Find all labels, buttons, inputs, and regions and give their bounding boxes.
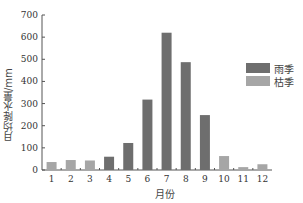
legend-label-dry: 枯季	[274, 74, 294, 89]
bar-month-1	[47, 162, 57, 170]
plot-area: 0100200300400500600700123456789101112	[0, 0, 303, 203]
y-tick-label: 300	[21, 99, 38, 109]
bar-month-6	[142, 100, 152, 170]
x-tick-label: 2	[68, 174, 74, 184]
x-tick-label: 12	[257, 174, 268, 184]
y-axis-label: 月均降水量/mm	[1, 60, 15, 150]
x-tick-label: 8	[183, 174, 189, 184]
legend-item-wet-season: 雨季	[246, 62, 294, 74]
bar-month-8	[181, 62, 191, 170]
y-tick-label: 400	[21, 76, 38, 86]
bar-month-11	[238, 167, 248, 170]
bar-month-9	[200, 115, 210, 170]
x-tick-label: 5	[125, 174, 131, 184]
x-tick-label: 7	[164, 174, 170, 184]
x-tick-label: 6	[145, 174, 151, 184]
bar-month-4	[104, 157, 114, 170]
x-tick-label: 9	[202, 174, 208, 184]
bar-month-5	[123, 143, 133, 170]
legend-swatch-dry	[246, 76, 270, 86]
y-tick-label: 100	[21, 143, 38, 153]
bar-month-2	[66, 160, 76, 170]
bar-month-12	[257, 164, 267, 170]
legend: 雨季 枯季	[246, 62, 294, 88]
x-tick-label: 1	[49, 174, 55, 184]
y-tick-label: 500	[21, 54, 38, 64]
y-tick-label: 200	[21, 121, 38, 131]
x-tick-label: 11	[238, 174, 249, 184]
x-tick-label: 3	[87, 174, 93, 184]
x-axis-label: 月份	[155, 186, 175, 201]
bar-month-7	[162, 33, 172, 170]
y-tick-label: 700	[21, 10, 38, 20]
x-tick-label: 10	[218, 174, 230, 184]
bar-month-10	[219, 156, 229, 170]
legend-swatch-wet	[246, 63, 270, 73]
precipitation-chart: 0100200300400500600700123456789101112 月均…	[0, 0, 303, 203]
x-tick-label: 4	[106, 174, 112, 184]
bar-month-3	[85, 160, 95, 170]
y-tick-label: 600	[21, 32, 38, 42]
legend-item-dry-season: 枯季	[246, 75, 294, 87]
y-tick-label: 0	[32, 165, 38, 175]
